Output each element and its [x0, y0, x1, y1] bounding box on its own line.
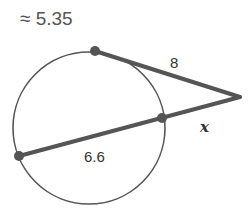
- tangent-label: 8: [170, 54, 178, 71]
- secant-tangent-diagram: 8 x 6.6: [0, 0, 250, 223]
- secant-near-point: [157, 113, 167, 123]
- tangent-point: [90, 46, 100, 56]
- external-secant-label: x: [199, 118, 210, 136]
- tangent-segment: [95, 51, 240, 97]
- secant-far-point: [14, 151, 24, 161]
- chord-label: 6.6: [84, 148, 105, 165]
- circle: [13, 52, 165, 204]
